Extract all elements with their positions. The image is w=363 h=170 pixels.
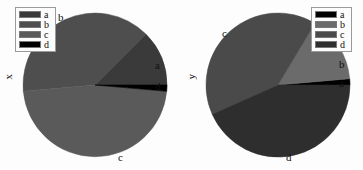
legend-row-y-b[interactable]: b: [315, 20, 348, 29]
legend-swatch-icon-y-b: [315, 21, 337, 28]
legend-x: a b c d: [15, 7, 56, 52]
pie-label-x-d: d: [155, 81, 161, 92]
legend-label-y-c: c: [340, 30, 344, 39]
axis-label-x: x: [3, 74, 14, 80]
legend-label-y-b: b: [340, 20, 345, 29]
legend-label-y-a: a: [340, 10, 344, 19]
legend-row-x-b[interactable]: b: [19, 20, 52, 29]
legend-row-x-c[interactable]: c: [19, 30, 52, 39]
legend-y: a b c d: [311, 7, 352, 52]
legend-swatch-icon-x-d: [19, 41, 41, 48]
pie-slice-x-c[interactable]: [23, 85, 166, 157]
pie-label-y-a: a: [339, 78, 344, 89]
legend-label-x-b: b: [44, 20, 49, 29]
pie-label-y-d: d: [286, 152, 292, 163]
pie-panel-x: x b a d c a b: [0, 0, 181, 170]
pie-label-y-c: c: [222, 28, 227, 39]
pie-label-y-b: b: [339, 59, 345, 70]
legend-row-x-d[interactable]: d: [19, 40, 52, 49]
legend-swatch-icon-y-c: [315, 31, 337, 38]
legend-swatch-icon-x-c: [19, 31, 41, 38]
legend-swatch-icon-y-d: [315, 41, 337, 48]
legend-swatch-icon-x-a: [19, 11, 41, 18]
pie-label-x-c: c: [118, 152, 123, 163]
legend-row-y-a[interactable]: a: [315, 10, 348, 19]
legend-swatch-icon-x-b: [19, 21, 41, 28]
axis-label-y: y: [186, 74, 197, 80]
legend-row-y-c[interactable]: c: [315, 30, 348, 39]
legend-swatch-icon-y-a: [315, 11, 337, 18]
legend-row-y-d[interactable]: d: [315, 40, 348, 49]
pie-label-x-a: a: [155, 60, 160, 71]
figure-root: x b a d c a b: [0, 0, 363, 170]
legend-label-x-a: a: [44, 10, 48, 19]
legend-label-x-c: c: [44, 30, 48, 39]
legend-label-y-d: d: [340, 40, 345, 49]
pie-label-x-b: b: [58, 12, 64, 23]
legend-label-x-d: d: [44, 40, 49, 49]
legend-row-x-a[interactable]: a: [19, 10, 52, 19]
pie-panel-y: y c b a d a b: [181, 0, 362, 170]
